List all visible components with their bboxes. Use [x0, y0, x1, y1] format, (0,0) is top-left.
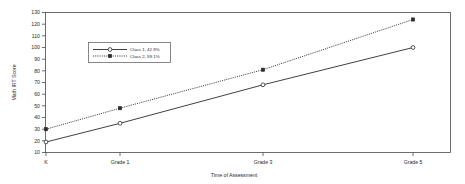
chart-figure: 130 120 110 100 90 80 70 60 50 40 30 20 …	[0, 0, 465, 184]
data-point-marker	[261, 83, 265, 87]
legend-marker-class-2	[108, 54, 111, 57]
y-tick-label: 80	[34, 68, 40, 74]
data-point-marker	[411, 46, 415, 50]
y-tick-label: 20	[34, 138, 40, 144]
plot-frame	[46, 13, 451, 153]
chart-legend: Class 1, 42.9% Class 2, 59.1%	[89, 43, 171, 63]
legend-label-class-2: Class 2, 59.1%	[130, 54, 160, 59]
y-tick-label: 30	[34, 126, 40, 132]
legend-label-class-1: Class 1, 42.9%	[130, 47, 160, 52]
y-tick-label: 60	[34, 91, 40, 97]
y-axis-title: Math IRT Score	[11, 64, 17, 100]
y-tick-label: 100	[31, 44, 40, 50]
y-tick-label: 110	[32, 33, 40, 39]
y-tick-label: 10	[34, 149, 40, 155]
y-tick-label: 120	[31, 21, 40, 27]
data-point-marker	[44, 128, 47, 131]
y-tick-label: 70	[34, 79, 40, 85]
x-tick-label: Grade 3	[254, 159, 273, 165]
data-point-marker	[411, 18, 414, 21]
legend-marker-class-1	[108, 48, 112, 52]
x-tick-label: Grade 1	[111, 159, 130, 165]
data-point-marker	[118, 121, 122, 125]
legend-box	[89, 43, 171, 63]
line-chart-svg: 130 120 110 100 90 80 70 60 50 40 30 20 …	[0, 0, 465, 184]
series-class-2	[44, 18, 414, 131]
series-class-2-line	[46, 20, 413, 130]
y-tick-label: 50	[34, 103, 40, 109]
data-point-marker	[118, 107, 121, 110]
x-tick-label: Grade 5	[404, 159, 423, 165]
y-tick-label: 130	[31, 9, 40, 15]
x-axis-ticks	[46, 153, 413, 157]
y-tick-label: 40	[34, 114, 40, 120]
data-point-marker	[261, 68, 264, 71]
data-point-marker	[44, 140, 48, 144]
x-tick-label: K	[44, 159, 48, 165]
y-axis-ticks	[42, 13, 46, 153]
y-tick-label: 90	[34, 56, 40, 62]
x-axis-tick-labels: K Grade 1 Grade 3 Grade 5	[44, 159, 422, 165]
x-axis-title: Time of Assessment	[211, 172, 258, 178]
y-axis-tick-labels: 130 120 110 100 90 80 70 60 50 40 30 20 …	[31, 9, 40, 155]
